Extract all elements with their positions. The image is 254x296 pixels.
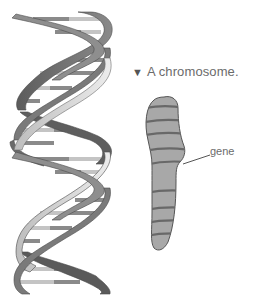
triangle-marker-icon: ▼ xyxy=(132,66,143,78)
dna-helix-illustration xyxy=(0,0,120,296)
chromosome-caption: ▼A chromosome. xyxy=(132,64,239,79)
figure: ▼A chromosome. gene xyxy=(0,0,254,296)
caption-text: A chromosome. xyxy=(147,64,239,79)
chromosome-illustration xyxy=(140,92,200,262)
gene-label: gene xyxy=(210,145,234,157)
